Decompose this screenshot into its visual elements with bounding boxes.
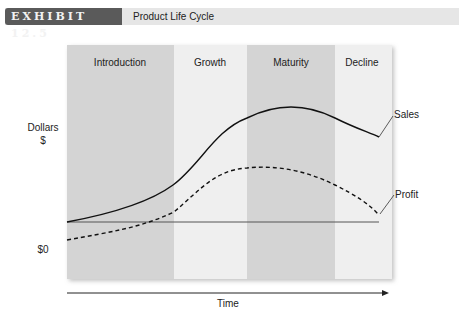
stage-band-decline: [335, 45, 392, 279]
zero-label: $0: [37, 244, 49, 255]
stage-band-growth: [174, 45, 247, 279]
stage-label-growth: Growth: [194, 57, 226, 68]
stage-bands: [67, 45, 392, 279]
product-life-cycle-chart: Introduction Growth Maturity Decline Sal…: [0, 0, 459, 312]
stage-label-decline: Decline: [345, 57, 379, 68]
y-axis-label: Dollars: [27, 122, 58, 133]
stage-band-maturity: [247, 45, 335, 279]
arrow-right-icon: [382, 290, 389, 296]
profit-label: Profit: [395, 189, 419, 200]
y-axis-symbol: $: [40, 135, 46, 146]
sales-label: Sales: [394, 109, 419, 120]
stage-label-maturity: Maturity: [273, 57, 309, 68]
stage-band-introduction: [67, 45, 174, 279]
x-axis-label: Time: [217, 298, 239, 309]
stage-label-introduction: Introduction: [94, 57, 146, 68]
